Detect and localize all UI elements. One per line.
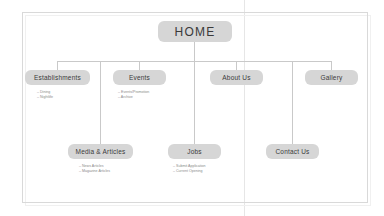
sublist-bullet: – [79, 164, 81, 168]
sublist-item: – Nightlife [37, 95, 53, 100]
node-establishments[interactable]: Establishments [25, 70, 90, 85]
node-jobs[interactable]: Jobs [168, 144, 221, 159]
sublist-bullet: – [173, 164, 175, 168]
sublist-bullet: – [118, 95, 120, 99]
sublist-label: Submit Application [176, 164, 206, 168]
node-media-articles-label: Media & Articles [76, 148, 126, 155]
sublist-item: – Current Opening [173, 169, 206, 174]
node-home-label: HOME [175, 25, 216, 39]
node-about-us[interactable]: About Us [210, 70, 263, 85]
sublist-bullet: – [173, 169, 175, 173]
node-jobs-label: Jobs [187, 148, 202, 155]
sublist-events: – Events/Promotion – Archive [118, 90, 149, 101]
node-media-articles[interactable]: Media & Articles [68, 144, 133, 159]
connector-drop-establishments [57, 61, 58, 70]
sublist-media-articles: – News Articles – Magazine Articles [79, 164, 110, 175]
sublist-label: Archive [121, 95, 133, 99]
node-home[interactable]: HOME [158, 21, 232, 42]
connector-home-stem [194, 42, 195, 62]
node-gallery[interactable]: Gallery [305, 70, 358, 85]
node-contact-us-label: Contact Us [275, 148, 309, 155]
connector-drop-media-articles [100, 61, 101, 144]
sublist-bullet: – [118, 90, 120, 94]
node-events[interactable]: Events [113, 70, 166, 85]
sublist-label: News Articles [82, 164, 104, 168]
node-about-us-label: About Us [222, 74, 250, 81]
node-establishments-label: Establishments [34, 74, 81, 81]
node-contact-us[interactable]: Contact Us [266, 144, 319, 159]
sublist-jobs: – Submit Application – Current Opening [173, 164, 206, 175]
sublist-item: – Archive [118, 95, 149, 100]
sublist-bullet: – [79, 169, 81, 173]
connector-drop-about-us [236, 61, 237, 70]
sublist-label: Dining [40, 90, 50, 94]
sublist-bullet: – [37, 95, 39, 99]
connector-drop-contact-us [292, 61, 293, 144]
sublist-label: Nightlife [40, 95, 53, 99]
connector-drop-events [139, 61, 140, 70]
sublist-bullet: – [37, 90, 39, 94]
sublist-item: – Magazine Articles [79, 169, 110, 174]
connector-drop-jobs [194, 62, 195, 144]
sitemap-canvas: HOME Establishments Events About Us Gall… [0, 0, 384, 216]
sublist-establishments: – Dining – Nightlife [37, 90, 53, 101]
node-gallery-label: Gallery [321, 74, 343, 81]
node-events-label: Events [129, 74, 150, 81]
sublist-label: Events/Promotion [121, 90, 149, 94]
connector-drop-gallery [331, 61, 332, 70]
sublist-label: Magazine Articles [82, 169, 110, 173]
sublist-label: Current Opening [176, 169, 203, 173]
